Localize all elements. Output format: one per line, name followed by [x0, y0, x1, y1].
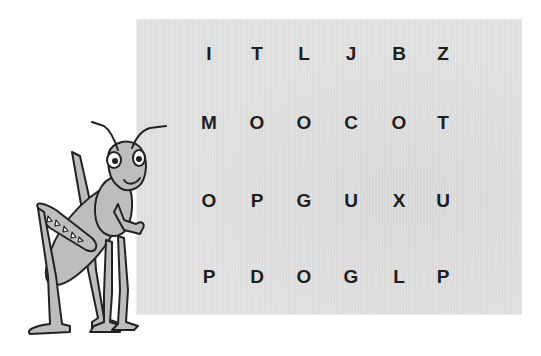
- grid-cell: B: [384, 44, 414, 64]
- grid-cell: P: [428, 267, 458, 287]
- grid-cell: C: [336, 113, 366, 133]
- grid-cell: U: [336, 191, 366, 211]
- grid-cell: P: [242, 191, 272, 211]
- grid-cell: O: [289, 267, 319, 287]
- grid-cell: O: [289, 113, 319, 133]
- grid-cell: Z: [428, 44, 458, 64]
- grid-cell: D: [242, 267, 272, 287]
- grid-cell: T: [428, 113, 458, 133]
- grid-cell: O: [384, 113, 414, 133]
- grid-cell: X: [384, 191, 414, 211]
- grasshopper-icon: [0, 100, 200, 356]
- grid-cell: T: [242, 44, 272, 64]
- grid-cell: U: [428, 191, 458, 211]
- grid-cell: L: [384, 267, 414, 287]
- grid-cell: I: [194, 44, 224, 64]
- grid-cell: J: [336, 44, 366, 64]
- grid-cell: L: [289, 44, 319, 64]
- grid-cell: O: [242, 113, 272, 133]
- grid-cell: G: [336, 267, 366, 287]
- grid-cell: G: [289, 191, 319, 211]
